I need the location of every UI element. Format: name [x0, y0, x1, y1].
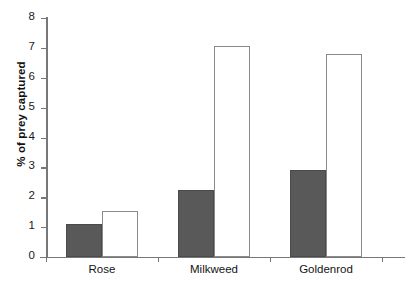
y-axis-tick-label: 8 — [29, 10, 35, 22]
y-axis-tick-label: 6 — [29, 70, 35, 82]
y-axis-tick-label: 2 — [29, 189, 35, 201]
y-axis-tick-label: 4 — [29, 130, 35, 142]
bar — [66, 224, 102, 257]
y-axis-tick-label: 3 — [29, 159, 35, 171]
y-axis-tick-label: 0 — [29, 249, 35, 261]
y-axis-tick-label: 1 — [29, 219, 35, 231]
y-axis-title: % of prey captured — [15, 24, 27, 204]
y-axis-tick-mark — [41, 108, 46, 109]
y-axis-tick-mark — [41, 48, 46, 49]
x-axis-tick-mark — [382, 257, 383, 262]
x-axis-tick-mark — [158, 257, 159, 262]
y-axis-tick-mark — [41, 18, 46, 19]
bar-chart-figure: % of prey captured 876543210 RoseMilkwee… — [0, 0, 410, 285]
bar — [214, 46, 250, 257]
bar — [290, 170, 326, 257]
bar — [102, 211, 138, 257]
y-axis-tick-mark — [41, 197, 46, 198]
x-axis-category-label: Goldenrod — [260, 263, 392, 275]
plot-area — [47, 18, 402, 257]
x-axis-tick-mark — [46, 257, 47, 262]
y-axis-tick-mark — [41, 78, 46, 79]
y-axis-tick-mark — [41, 167, 46, 168]
y-axis-tick-label: 7 — [29, 40, 35, 52]
y-axis-tick-label: 5 — [29, 100, 35, 112]
bar — [326, 54, 362, 257]
x-axis-tick-mark — [270, 257, 271, 262]
bar — [178, 190, 214, 257]
y-axis-tick-mark — [41, 227, 46, 228]
y-axis-tick-mark — [41, 138, 46, 139]
